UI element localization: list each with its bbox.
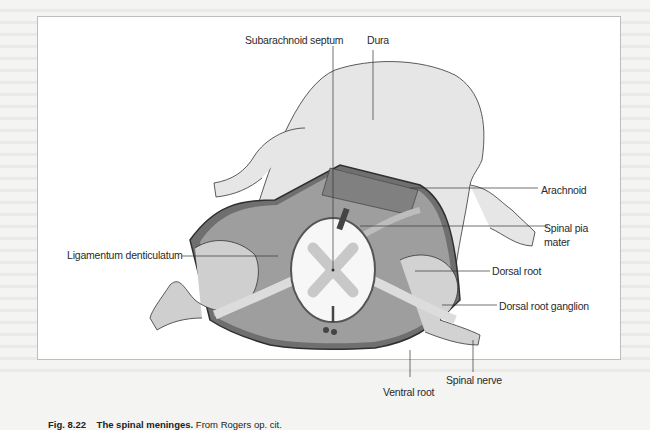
label-dorsal-root-ganglion: Dorsal root ganglion xyxy=(499,300,589,312)
caption-title: The spinal meninges. xyxy=(97,419,194,430)
vessel-1 xyxy=(323,327,329,333)
label-subarachnoid-septum: Subarachnoid septum xyxy=(245,34,343,46)
caption-source: From Rogers op. cit. xyxy=(196,419,282,430)
label-arachnoid: Arachnoid xyxy=(541,184,586,196)
upper-right-nerve xyxy=(470,185,535,246)
label-spinal-pia-mater-2: mater xyxy=(544,236,570,248)
vessel-2 xyxy=(331,329,337,335)
label-dura: Dura xyxy=(367,34,389,46)
label-spinal-nerve: Spinal nerve xyxy=(446,374,502,386)
label-ligamentum-denticulatum: Ligamentum denticulatum xyxy=(67,249,183,261)
caption-number: Fig. 8.22 xyxy=(48,419,86,430)
label-dorsal-root: Dorsal root xyxy=(492,265,541,277)
label-spinal-pia-mater-1: Spinal pia xyxy=(544,222,588,234)
label-ventral-root: Ventral root xyxy=(383,386,434,398)
figure-caption: Fig. 8.22 The spinal meninges. From Roge… xyxy=(48,419,282,430)
